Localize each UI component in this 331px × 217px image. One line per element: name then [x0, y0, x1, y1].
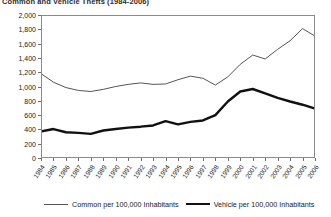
- x-axis-tick-mark: [315, 158, 316, 161]
- y-axis-tick-label: 400: [24, 126, 36, 133]
- legend-item[interactable]: Vehicle per 100,000 Inhabitants: [186, 200, 315, 209]
- x-axis-tick-mark: [215, 158, 216, 161]
- x-axis-tick-mark: [190, 158, 191, 161]
- x-axis-tick-mark: [166, 158, 167, 161]
- y-axis-tick-label: 0: [32, 155, 36, 162]
- x-axis-tick-mark: [103, 158, 104, 161]
- x-axis-tick-mark: [203, 158, 204, 161]
- x-axis-tick-mark: [91, 158, 92, 161]
- legend-line-swatch: [44, 204, 68, 205]
- chart-legend: Common per 100,000 InhabitantsVehicle pe…: [44, 197, 324, 211]
- x-axis-tick-mark: [53, 158, 54, 161]
- chart-title: Common and Vehicle Thefts (1984-2006): [2, 0, 252, 7]
- x-axis-tick-mark: [178, 158, 179, 161]
- chart-container: Common and Vehicle Thefts (1984-2006) 02…: [0, 0, 331, 217]
- x-axis-tick-mark: [278, 158, 279, 161]
- x-axis-tick-mark: [290, 158, 291, 161]
- legend-line-swatch: [186, 203, 210, 206]
- legend-label: Vehicle per 100,000 Inhabitants: [214, 200, 315, 209]
- legend-item[interactable]: Common per 100,000 Inhabitants: [44, 200, 179, 209]
- x-axis-tick-mark: [128, 158, 129, 161]
- x-axis-tick-mark: [240, 158, 241, 161]
- x-axis-tick-mark: [66, 158, 67, 161]
- series-canvas: [42, 16, 314, 157]
- x-axis-tick-mark: [141, 158, 142, 161]
- plot-area: [41, 15, 315, 158]
- x-axis-tick-mark: [78, 158, 79, 161]
- y-axis-tick-label: 800: [24, 97, 36, 104]
- x-axis-tick-mark: [41, 158, 42, 161]
- y-axis-tick-label: 2,000: [18, 12, 36, 19]
- y-axis-tick-label: 1,200: [18, 69, 36, 76]
- y-axis-tick-label: 1,600: [18, 40, 36, 47]
- x-axis-tick-mark: [228, 158, 229, 161]
- series-line-vehicle: [42, 89, 314, 134]
- series-line-common: [42, 29, 314, 92]
- x-axis-tick-mark: [253, 158, 254, 161]
- y-axis-tick-label: 1,800: [18, 26, 36, 33]
- y-axis-tick-label: 1,400: [18, 54, 36, 61]
- y-axis-tick-label: 200: [24, 140, 36, 147]
- x-axis-tick-mark: [153, 158, 154, 161]
- y-axis-tick-label: 1,000: [18, 83, 36, 90]
- legend-label: Common per 100,000 Inhabitants: [72, 200, 179, 209]
- x-axis-tick-mark: [116, 158, 117, 161]
- y-axis-tick-label: 600: [24, 112, 36, 119]
- x-axis-tick-mark: [265, 158, 266, 161]
- x-axis-tick-mark: [303, 158, 304, 161]
